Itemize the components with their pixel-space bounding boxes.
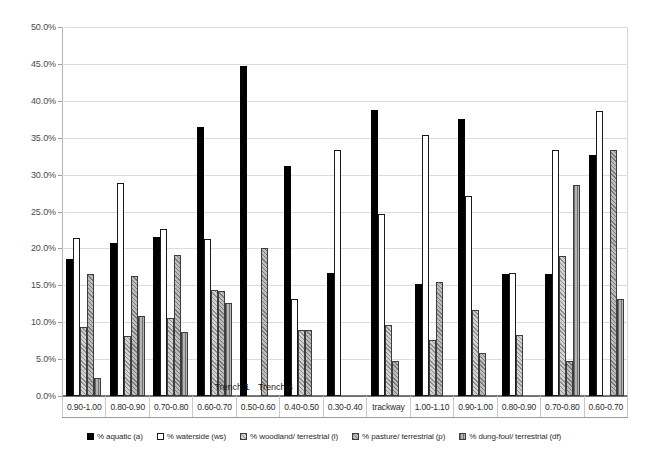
bar-a	[371, 110, 378, 396]
bar-ws	[204, 239, 211, 396]
bar-p	[261, 248, 268, 396]
legend-swatch-p	[352, 433, 359, 440]
legend-swatch-ws	[157, 433, 164, 440]
x-axis-tick-label: 1.00-1.10	[411, 396, 454, 417]
legend-item-a: % aquatic (a)	[87, 432, 143, 441]
y-axis-tick-label: 20.0%	[2, 243, 56, 253]
x-axis-tick-label: 0.80-0.90	[106, 396, 149, 417]
bar-df	[138, 316, 145, 396]
bar-a	[458, 119, 465, 396]
bar-group	[323, 27, 367, 396]
bar-p	[479, 353, 486, 396]
bar-group-bars	[367, 27, 411, 396]
bar-group	[106, 27, 150, 396]
bar-df	[573, 185, 580, 396]
bar-p	[218, 291, 225, 396]
legend-label: % woodland/ terrestrial (l)	[250, 432, 338, 441]
legend-item-df: % dung-foul/ terrestrial (df)	[459, 432, 561, 441]
y-axis-tick-label: 0.0%	[2, 391, 56, 401]
bar-a	[110, 243, 117, 396]
bar-group	[584, 27, 628, 396]
legend-label: % pasture/ terrestrial (p)	[362, 432, 445, 441]
bar-l	[211, 290, 218, 396]
bar-a	[502, 274, 509, 397]
bar-group	[149, 27, 193, 396]
bar-a	[240, 66, 247, 396]
bar-ws	[596, 111, 603, 396]
y-axis-tick-label: 25.0%	[2, 207, 56, 217]
bar-ws	[552, 150, 559, 396]
x-axis-tick-label: 0.30-0.40	[324, 396, 367, 417]
bar-a	[327, 273, 334, 396]
x-axis-tick-label: 0.50-0.60	[237, 396, 280, 417]
plot-area	[62, 27, 628, 396]
bar-ws	[334, 150, 341, 396]
bar-group	[280, 27, 324, 396]
x-axis-tick-label: 0.60-0.70	[193, 396, 236, 417]
bar-group	[236, 27, 280, 396]
bar-p	[566, 361, 573, 396]
bar-p	[174, 255, 181, 396]
bar-groups	[62, 27, 628, 396]
bar-a	[153, 237, 160, 396]
bar-a	[415, 284, 422, 396]
bar-group	[410, 27, 454, 396]
bar-group-bars	[584, 27, 628, 396]
bar-group-bars	[106, 27, 150, 396]
legend-label: % waterside (ws)	[167, 432, 226, 441]
legend-item-ws: % waterside (ws)	[157, 432, 226, 441]
bar-p	[305, 330, 312, 396]
y-axis-tick-label: 35.0%	[2, 133, 56, 143]
x-axis-labels: 0.90-1.000.80-0.900.70-0.800.60-0.700.50…	[62, 396, 628, 418]
bar-group	[193, 27, 237, 396]
bar-group	[497, 27, 541, 396]
bar-ws	[378, 214, 385, 396]
bar-l	[124, 336, 131, 396]
bar-df	[617, 299, 624, 396]
bar-a	[589, 155, 596, 396]
legend-item-p: % pasture/ terrestrial (p)	[352, 432, 445, 441]
y-axis-tick-label: 40.0%	[2, 96, 56, 106]
bar-ws	[117, 183, 124, 396]
bar-l	[80, 327, 87, 396]
bar-a	[545, 274, 552, 397]
y-axis-tick-label: 10.0%	[2, 317, 56, 327]
legend-swatch-l	[240, 433, 247, 440]
legend-label: % aquatic (a)	[97, 432, 143, 441]
bar-group	[454, 27, 498, 396]
x-axis-tick-label: 0.70-0.80	[150, 396, 193, 417]
x-axis-tick-label: 0.90-1.00	[62, 396, 106, 417]
bar-l	[429, 340, 436, 396]
bar-chart: 0.0%5.0%10.0%15.0%20.0%25.0%30.0%35.0%40…	[0, 0, 648, 456]
x-axis-tick-label: 0.70-0.80	[541, 396, 584, 417]
bar-p	[87, 274, 94, 397]
bar-p	[392, 361, 399, 396]
bar-group-bars	[497, 27, 541, 396]
y-axis-tick-label: 45.0%	[2, 59, 56, 69]
x-axis-tick-label: 0.80-0.90	[498, 396, 541, 417]
bar-l	[167, 318, 174, 396]
bar-p	[436, 282, 443, 396]
y-axis-tick-label: 30.0%	[2, 170, 56, 180]
bar-ws	[73, 238, 80, 396]
bar-df	[181, 332, 188, 396]
bar-df	[94, 378, 101, 396]
x-axis-tick-label: trackway	[367, 396, 410, 417]
legend-swatch-a	[87, 433, 94, 440]
bar-ws	[422, 135, 429, 396]
bar-group-bars	[410, 27, 454, 396]
bar-l	[559, 256, 566, 396]
bar-ws	[160, 229, 167, 396]
y-axis-tick-label: 50.0%	[2, 22, 56, 32]
bar-group-bars	[149, 27, 193, 396]
legend-label: % dung-foul/ terrestrial (df)	[469, 432, 561, 441]
bar-group-bars	[323, 27, 367, 396]
bar-group-bars	[193, 27, 237, 396]
bar-a	[284, 166, 291, 396]
bar-l	[385, 325, 392, 396]
bar-group-bars	[236, 27, 280, 396]
x-axis-tick-label: 0.40-0.50	[280, 396, 323, 417]
y-axis-tick-label: 15.0%	[2, 280, 56, 290]
bar-ws	[509, 273, 516, 396]
bar-l	[516, 335, 523, 396]
